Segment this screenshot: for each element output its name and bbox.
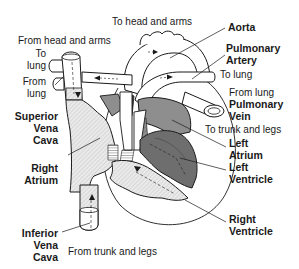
heart-diagram: To head and arms From head and arms To l…	[0, 0, 299, 269]
label-pulmonary-artery-1: Pulmonary	[226, 42, 280, 54]
label-right-ventricle-2: Ventricle	[229, 225, 273, 237]
label-right-atrium-2: Atrium	[10, 174, 58, 186]
label-to-trunk-and-legs: To trunk and legs	[205, 124, 281, 135]
label-superior-vena-cava-1: Superior	[10, 110, 58, 122]
left-pulmonary-branch	[49, 60, 132, 90]
label-superior-vena-cava-3: Cava	[10, 134, 58, 146]
aorta-shape	[124, 31, 210, 95]
superior-vena-cava-shape	[62, 52, 82, 100]
label-from-lung-left-2: lung	[22, 88, 46, 99]
label-to-lung-left-1: To	[30, 48, 46, 59]
label-left-ventricle-1: Left	[229, 161, 248, 173]
label-inferior-vena-cava-2: Vena	[10, 239, 58, 251]
label-right-ventricle-1: Right	[229, 213, 256, 225]
label-to-head-and-arms: To head and arms	[112, 16, 192, 27]
label-from-lung-left-1: From	[20, 76, 46, 87]
label-left-ventricle-2: Ventricle	[229, 173, 273, 185]
label-to-lung-left-2: lung	[22, 60, 46, 71]
label-pulmonary-vein-1: Pulmonary	[229, 98, 283, 110]
label-superior-vena-cava-2: Vena	[10, 122, 58, 134]
label-from-lung-right: From lung	[229, 87, 274, 98]
label-left-atrium-1: Left	[229, 137, 248, 149]
label-left-atrium-2: Atrium	[229, 149, 263, 161]
label-from-head-and-arms: From head and arms	[18, 35, 111, 46]
label-pulmonary-vein-2: Vein	[229, 110, 251, 122]
label-pulmonary-artery-2: Artery	[226, 54, 257, 66]
label-inferior-vena-cava-1: Inferior	[10, 227, 58, 239]
label-aorta: Aorta	[228, 21, 255, 33]
label-to-lung-right: To lung	[220, 69, 252, 80]
label-from-trunk-and-legs: From trunk and legs	[68, 246, 157, 257]
label-right-atrium-1: Right	[10, 162, 58, 174]
label-inferior-vena-cava-3: Cava	[10, 251, 58, 263]
